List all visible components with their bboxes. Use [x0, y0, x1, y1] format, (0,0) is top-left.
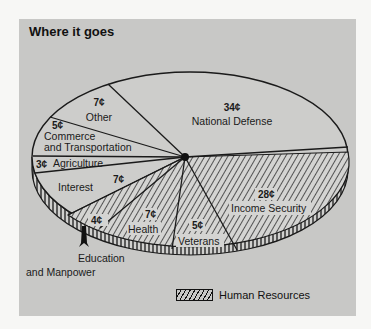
education-value: 4¢	[91, 215, 103, 226]
other-value: 7¢	[93, 97, 105, 108]
education-label-1: Education	[78, 252, 125, 264]
interest-value: 7¢	[113, 174, 125, 185]
other-label: Other	[86, 111, 113, 123]
national-defense-value: 34¢	[224, 102, 241, 113]
hatch-swatch-icon	[176, 289, 213, 301]
commerce-label-2: and Transportation	[44, 141, 132, 153]
national-defense-label: National Defense	[192, 115, 273, 127]
veterans-label: Veterans	[178, 235, 219, 247]
veterans-value: 5¢	[192, 220, 204, 231]
education-label-2: and Manpower	[26, 266, 96, 278]
pie-center	[181, 153, 189, 161]
interest-label: Interest	[58, 181, 93, 193]
income-security-label: Income Security	[231, 202, 307, 214]
legend-label: Human Resources	[219, 289, 310, 301]
agriculture-label: Agriculture	[53, 157, 103, 169]
agriculture-value: 3¢	[36, 159, 48, 170]
pie-chart: 34¢ National Defense 7¢ Other 5¢ Commerc…	[0, 0, 371, 329]
health-label: Health	[128, 223, 159, 235]
chart-legend: Human Resources	[176, 289, 310, 301]
income-security-value: 28¢	[258, 189, 275, 200]
health-value: 7¢	[145, 209, 157, 220]
